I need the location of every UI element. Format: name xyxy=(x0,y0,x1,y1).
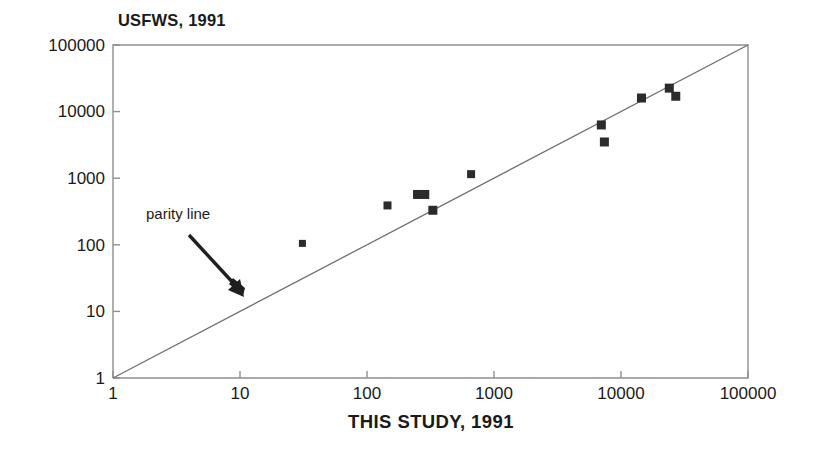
y-tick-label-10: 10 xyxy=(20,303,105,320)
data-point xyxy=(600,137,609,146)
x-axis-ticks xyxy=(113,371,748,378)
parity-line-annotation: parity line xyxy=(146,206,210,221)
data-point xyxy=(665,84,674,93)
y-axis-ticks xyxy=(113,45,120,378)
y-tick-label-1000: 1000 xyxy=(20,170,105,187)
chart-figure: USFWS, 1991 xyxy=(0,0,825,462)
x-axis-title: THIS STUDY, 1991 xyxy=(113,411,749,433)
y-tick-label-100000: 100000 xyxy=(20,37,105,54)
x-tick-label-10: 10 xyxy=(200,385,280,402)
parity-line-arrow xyxy=(189,235,245,297)
data-point xyxy=(420,190,429,199)
x-tick-label-100000: 100000 xyxy=(708,385,788,402)
data-point-markers xyxy=(299,84,680,247)
data-point xyxy=(383,201,391,209)
data-point xyxy=(299,240,306,247)
x-tick-label-100: 100 xyxy=(327,385,407,402)
y-tick-label-10000: 10000 xyxy=(20,103,105,120)
data-point xyxy=(671,92,680,101)
x-tick-label-10000: 10000 xyxy=(581,385,661,402)
data-point xyxy=(637,94,646,103)
data-point xyxy=(467,170,475,178)
data-point xyxy=(597,120,606,129)
data-point xyxy=(428,206,437,215)
y-tick-label-100: 100 xyxy=(20,237,105,254)
x-tick-label-1: 1 xyxy=(73,385,153,402)
x-tick-label-1000: 1000 xyxy=(454,385,534,402)
